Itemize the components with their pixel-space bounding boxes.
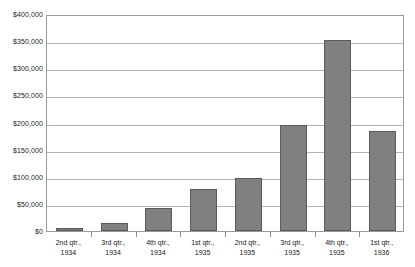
x-tick-label-line2: 1934 <box>46 248 91 258</box>
bar-chart: $400,000$350,000$300,000$250,000$200,000… <box>0 0 415 267</box>
x-tick <box>225 232 226 237</box>
x-tick <box>91 232 92 237</box>
x-tick-label-line1: 1st qtr., <box>191 239 214 246</box>
y-tick-label: $150,000 <box>0 147 43 155</box>
x-tick-label-line1: 2nd qtr., <box>235 239 260 246</box>
x-tick-label: 1st qtr.,1935 <box>180 238 225 257</box>
plot-area <box>46 15 404 232</box>
bar <box>145 208 172 231</box>
x-tick-label: 1st qtr.,1936 <box>359 238 404 257</box>
y-tick-label: $400,000 <box>0 11 43 19</box>
bar <box>324 40 351 232</box>
x-tick-label: 2nd qtr.,1935 <box>225 238 270 257</box>
x-tick-label-line1: 3rd qtr., <box>280 239 304 246</box>
x-tick-label-line1: 3rd qtr., <box>101 239 125 246</box>
bar <box>56 228 83 231</box>
y-tick-label: $50,000 <box>0 201 43 209</box>
y-tick-label: $0 <box>0 228 43 236</box>
x-tick-label-line1: 4th qtr., <box>325 239 348 246</box>
bar <box>280 125 307 231</box>
x-tick <box>359 232 360 237</box>
y-tick-label: $250,000 <box>0 92 43 100</box>
x-tick-label-line2: 1934 <box>91 248 136 258</box>
x-tick-label-line2: 1936 <box>359 248 404 258</box>
x-tick-label-line2: 1934 <box>136 248 181 258</box>
bar <box>235 178 262 231</box>
bar <box>190 189 217 231</box>
y-tick-label: $100,000 <box>0 174 43 182</box>
y-tick-label: $200,000 <box>0 120 43 128</box>
x-tick-label-line1: 2nd qtr., <box>56 239 81 246</box>
x-tick-label-line1: 1st qtr., <box>370 239 393 246</box>
x-tick-label-line2: 1935 <box>270 248 315 258</box>
x-tick-label-line2: 1935 <box>225 248 270 258</box>
x-tick-label-line1: 4th qtr., <box>146 239 169 246</box>
x-tick-label: 4th qtr.,1934 <box>136 238 181 257</box>
x-tick <box>315 232 316 237</box>
x-tick-label-line2: 1935 <box>315 248 360 258</box>
bar <box>101 223 128 231</box>
x-tick <box>180 232 181 237</box>
x-tick-label: 3rd qtr.,1935 <box>270 238 315 257</box>
x-tick <box>136 232 137 237</box>
x-tick-label: 3rd qtr.,1934 <box>91 238 136 257</box>
y-axis: $400,000$350,000$300,000$250,000$200,000… <box>0 0 43 267</box>
bar <box>369 131 396 231</box>
x-tick-label-line2: 1935 <box>180 248 225 258</box>
x-tick-label: 4th qtr.,1935 <box>315 238 360 257</box>
x-tick <box>270 232 271 237</box>
x-tick-label: 2nd qtr.,1934 <box>46 238 91 257</box>
bars-group <box>47 16 403 231</box>
x-axis: 2nd qtr.,19343rd qtr.,19344th qtr.,19341… <box>46 238 404 267</box>
x-axis-ticks <box>46 232 404 237</box>
y-tick-label: $350,000 <box>0 38 43 46</box>
y-tick-label: $300,000 <box>0 65 43 73</box>
